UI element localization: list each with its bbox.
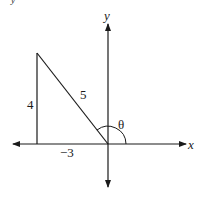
angle-label: θ [118,117,124,132]
x-axis-label: x [187,137,194,152]
base-label: −3 [60,145,74,160]
top-fragment-text: y [10,0,15,5]
hypotenuse-label: 5 [80,87,87,102]
vertical-side-label: 4 [27,97,34,112]
triangle-diagram: y x 4 5 −3 θ y [0,0,200,198]
y-axis-label: y [102,8,110,23]
